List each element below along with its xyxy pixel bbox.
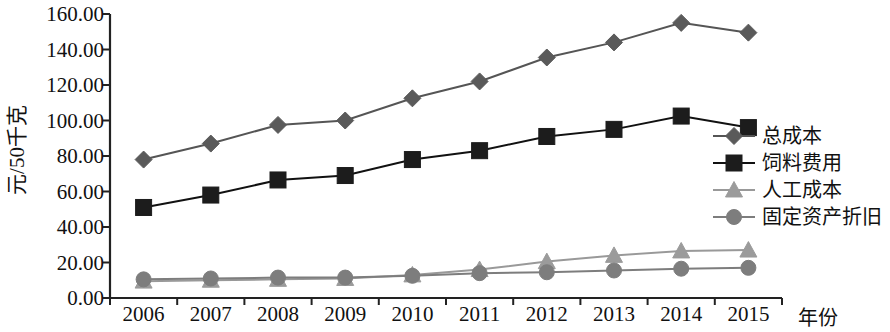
x-tick-label: 2007 [190,302,232,327]
x-tick-label: 2011 [459,302,500,327]
data-point-marker [741,260,756,275]
data-point-marker [606,34,623,51]
data-point-marker [472,266,487,281]
data-point-marker [472,143,488,159]
legend-marker-square-icon [712,153,756,173]
series-2 [136,108,757,215]
legend-marker-triangle-icon [712,180,756,200]
series-group [135,14,757,288]
data-point-marker [740,24,757,41]
data-point-marker [471,73,488,90]
data-point-marker [539,265,554,280]
data-point-marker [404,90,421,107]
x-tick-label: 2013 [593,302,635,327]
x-tick-label: 2006 [123,302,165,327]
data-point-marker [202,135,219,152]
data-point-marker [674,261,689,276]
data-point-marker [203,271,218,286]
data-point-marker [673,108,689,124]
data-point-marker [337,168,353,184]
data-point-marker [270,116,287,133]
series-4 [136,260,756,287]
data-point-marker [607,263,622,278]
legend-marker-circle-icon [712,207,756,227]
legend-item-4[interactable]: 固定资产折旧 [712,203,887,230]
legend-item-3[interactable]: 人工成本 [712,176,887,203]
x-tick-label: 2015 [727,302,769,327]
x-tick-label: 2010 [391,302,433,327]
x-axis-title: 年份 [798,302,838,331]
data-point-marker [271,270,286,285]
x-tick-label: 2009 [324,302,366,327]
data-point-marker [538,49,555,66]
data-point-marker [270,172,286,188]
data-point-marker [606,121,622,137]
series-1 [135,14,757,168]
data-point-marker [135,151,152,168]
chart-legend: 总成本饲料费用人工成本固定资产折旧 [712,122,887,230]
legend-label: 饲料费用 [762,153,842,173]
data-point-marker [673,14,690,31]
legend-marker-diamond-icon [712,126,756,146]
legend-label: 人工成本 [762,180,842,200]
data-point-marker [337,112,354,129]
data-point-marker [136,199,152,215]
legend-item-1[interactable]: 总成本 [712,122,887,149]
data-point-marker [338,270,353,285]
legend-item-2[interactable]: 饲料费用 [712,149,887,176]
legend-label: 总成本 [762,126,822,146]
x-tick-label: 2012 [526,302,568,327]
chart-container: 元/50千克 0.0020.0040.0060.0080.00100.00120… [0,0,890,332]
legend-label: 固定资产折旧 [762,207,882,227]
data-point-marker [203,187,219,203]
x-tick-label: 2008 [257,302,299,327]
x-tick-label: 2014 [660,302,702,327]
series-3 [135,242,757,289]
x-axis-tick-labels: 2006200720082009201020112012201320142015 [110,302,782,330]
data-point-marker [404,152,420,168]
data-point-marker [136,272,151,287]
data-point-marker [539,128,555,144]
data-point-marker [405,268,420,283]
